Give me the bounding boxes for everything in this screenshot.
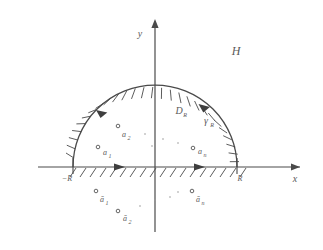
arc-label-base: γ <box>204 115 209 126</box>
region-label-base: D <box>174 105 183 116</box>
pole-label-subscript: 1 <box>106 200 109 206</box>
pole-label-subscript: 2 <box>128 135 131 141</box>
segment-direction-arrow-2 <box>194 163 205 170</box>
pole-label-base: a <box>122 130 126 139</box>
region-label-subscript: R <box>182 112 187 118</box>
arc-label-subscript: R <box>209 122 214 128</box>
left-endpoint-label: −R <box>62 174 72 183</box>
pole-label-subscript: n <box>204 152 207 158</box>
ellipsis-dots-upper <box>144 133 179 147</box>
pole-lower-a1-conj: ā 1 <box>94 189 108 205</box>
y-axis-label: y <box>137 28 143 39</box>
pole-lower-a2-conj: ā 2 <box>116 209 131 224</box>
complex-contour-diagram: y x −R R H D R γ R a 1 a 2 <box>0 0 323 250</box>
pole-label-base: ā <box>196 195 200 204</box>
pole-marker <box>94 189 98 193</box>
pole-marker <box>116 124 120 128</box>
pole-marker <box>190 189 194 193</box>
pole-lower-an-conj: ā n <box>190 189 204 205</box>
pole-label-subscript: 1 <box>109 153 112 159</box>
pole-label-subscript: 2 <box>129 219 132 225</box>
pole-label-base: a <box>198 147 202 156</box>
pole-upper-a1: a 1 <box>96 145 111 158</box>
pole-label-subscript: n <box>202 200 205 206</box>
y-axis-arrowhead <box>151 19 158 28</box>
axes-group <box>38 19 300 232</box>
region-label: D R <box>174 105 187 118</box>
segment-direction-arrow-1 <box>114 163 125 170</box>
half-plane-label: H <box>231 44 242 58</box>
x-axis-label: x <box>292 173 298 184</box>
arc-label: γ R <box>204 115 214 128</box>
pole-upper-a2: a 2 <box>116 124 130 140</box>
pole-label-base: ā <box>100 195 104 204</box>
arc-direction-arrow-left <box>96 110 107 118</box>
pole-marker <box>191 146 195 150</box>
right-endpoint-label: R <box>237 174 243 183</box>
pole-label-base: a <box>103 148 107 157</box>
pole-upper-an: a n <box>191 146 206 157</box>
poles-lower-group: ā 1 ā 2 ā n <box>94 189 204 224</box>
pole-marker <box>116 209 120 213</box>
real-segment-hatching <box>70 168 246 177</box>
ellipsis-dots-lower <box>139 191 179 207</box>
x-axis-arrowhead <box>291 163 300 170</box>
diagram-canvas: y x −R R H D R γ R a 1 a 2 <box>0 0 323 250</box>
poles-upper-group: a 1 a 2 a n <box>96 124 206 158</box>
pole-label-base: ā <box>123 214 127 223</box>
pole-marker <box>96 145 100 149</box>
